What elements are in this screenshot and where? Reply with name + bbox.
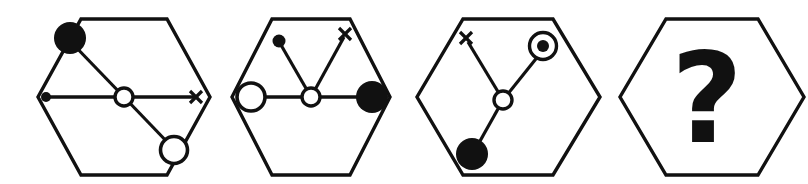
node-large-open-circle-1[interactable]	[161, 137, 188, 164]
node-small-filled-dot-2[interactable]	[273, 35, 286, 48]
panel-1[interactable]	[38, 19, 210, 175]
panel-3[interactable]	[417, 19, 600, 175]
node-bullseye-3[interactable]	[530, 33, 557, 60]
node-large-filled-circle-3[interactable]	[456, 138, 488, 170]
puzzle-canvas: ?	[0, 0, 808, 184]
hub-small-open-circle-2[interactable]	[302, 88, 320, 106]
node-large-filled-circle-1[interactable]	[54, 22, 86, 54]
hub-small-open-circle-3[interactable]	[494, 91, 512, 109]
node-small-filled-dot-1[interactable]	[41, 92, 51, 102]
panel-2[interactable]	[232, 19, 390, 175]
question-mark-glyph: ?	[671, 27, 743, 171]
node-large-open-circle-2[interactable]	[237, 83, 265, 111]
panel-4[interactable]: ?	[620, 19, 804, 175]
node-large-filled-circle-2[interactable]	[356, 81, 388, 113]
hub-small-open-circle-1[interactable]	[115, 88, 133, 106]
visual-analogy-puzzle: ?	[0, 0, 808, 184]
